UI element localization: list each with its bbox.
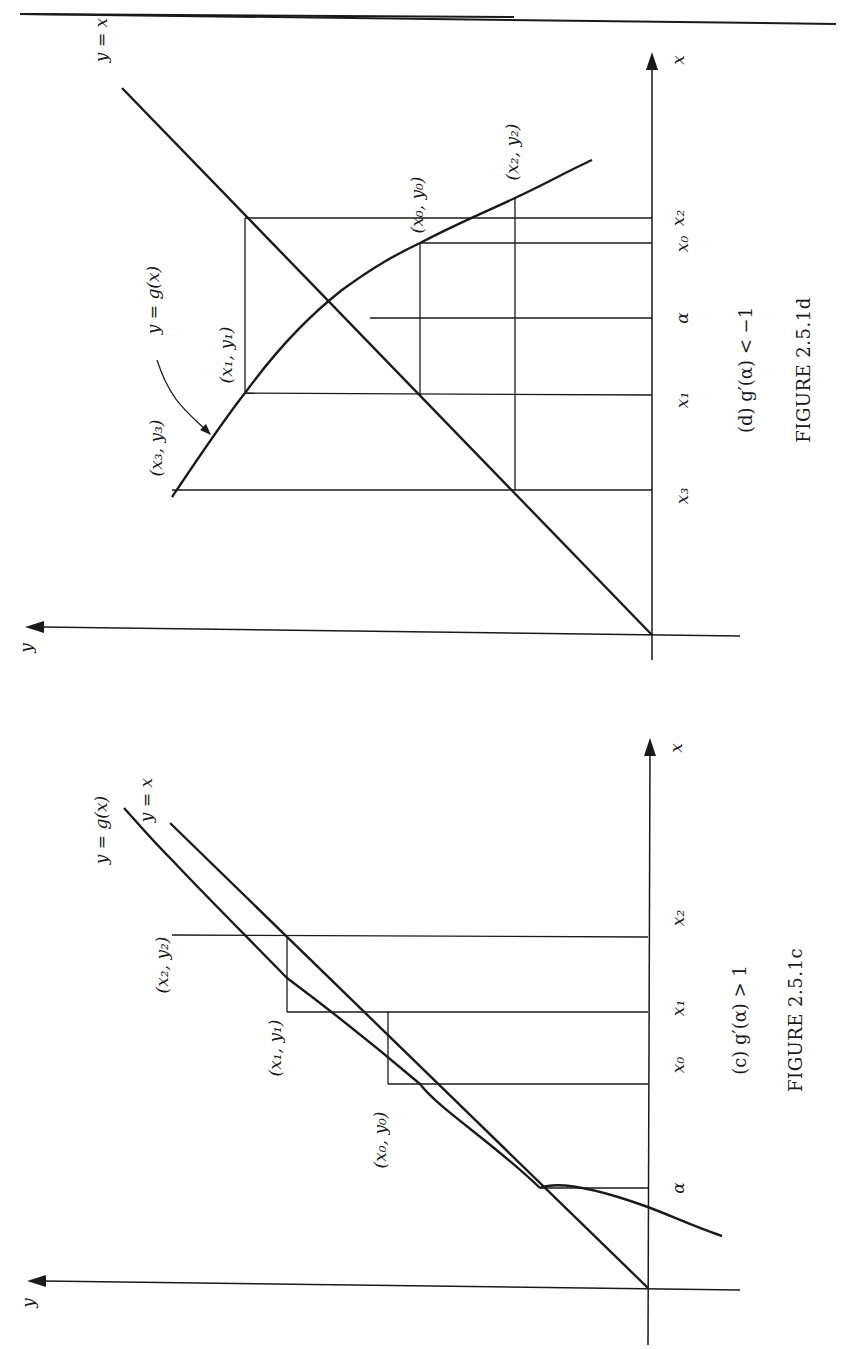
point-label-x0y0: (x₀, y₀) — [370, 1112, 390, 1169]
figure-d: x y y = x y = g(x) (x₀, y₀) (x₁, y₁) (x₂… — [16, 17, 814, 660]
subcaption: (c) g′(α) > 1 — [729, 965, 750, 1075]
x-axis-label: x — [666, 743, 686, 753]
x-axis-arrow-icon — [646, 52, 658, 70]
tick-x0: x₀ — [668, 1057, 688, 1074]
y-axis — [42, 627, 740, 636]
tick-x2: x₂ — [668, 210, 688, 227]
tick-alpha: α — [668, 1182, 688, 1194]
line-y-equals-x — [170, 823, 648, 1288]
x-axis-label: x — [668, 55, 688, 65]
tick-x1: x₁ — [672, 392, 692, 408]
line-label: y = x — [136, 777, 156, 823]
curve-g — [124, 808, 722, 1236]
tick-x1: x₁ — [668, 1000, 688, 1016]
point-label-x1y1: (x₁, y₁) — [265, 1020, 285, 1077]
subcaption: (d) g′(α) < −1 — [735, 307, 756, 433]
y-axis-label: y — [18, 1298, 38, 1309]
tick-x0: x₀ — [672, 236, 692, 253]
point-label-x2y2: (x₂, y₂) — [152, 937, 172, 994]
tick-x2: x₂ — [668, 910, 688, 927]
curve-label: y = g(x) — [91, 796, 111, 865]
y-axis-arrow-icon — [27, 1275, 46, 1287]
point-label-x1y1: (x₁, y₁) — [216, 327, 236, 384]
page-canvas: x y y = x y = g(x) (x₀, y₀) (x₁, y₁) (x₂… — [0, 0, 854, 1349]
y-axis-label: y — [16, 643, 36, 654]
point-label-x3y3: (x₃, y₃) — [146, 420, 166, 477]
figure-c: x y y = x y = g(x) (x₀, y₀) (x₁, y₁) (x₂… — [18, 738, 806, 1345]
y-axis — [44, 1281, 740, 1290]
x-axis-arrow-icon — [644, 738, 656, 756]
point-label-x0y0: (x₀, y₀) — [407, 177, 427, 234]
point-label-x2y2: (x₂, y₂) — [502, 124, 522, 181]
tick-x3: x₃ — [672, 488, 692, 505]
figure-title: FIGURE 2.5.1d — [793, 297, 814, 442]
x-axis — [648, 750, 650, 1345]
figure-title: FIGURE 2.5.1c — [785, 948, 806, 1092]
line-label: y = x — [91, 17, 111, 63]
y-axis-arrow-icon — [25, 621, 44, 633]
curve-label: y = g(x) — [143, 266, 163, 335]
tick-alpha: α — [672, 312, 692, 324]
